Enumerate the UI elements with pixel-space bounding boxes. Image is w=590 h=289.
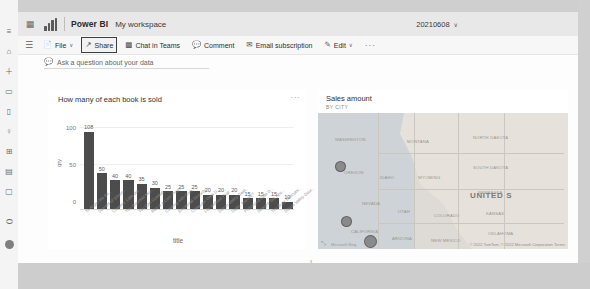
window-chrome-right — [578, 0, 590, 289]
qna-bubble-icon: 💬 — [44, 58, 53, 66]
visual-more-options-icon[interactable]: ··· — [291, 93, 301, 102]
edit-button[interactable]: ✎ Edit ∨ — [320, 38, 356, 52]
x-tick-label: Bart is a Liver Press... — [148, 209, 161, 236]
visual-map[interactable]: Sales amount BY CITY WASHINGTONMONTANANO… — [318, 89, 568, 249]
x-tick-label: Secrets of Silicon... — [95, 209, 108, 236]
map-title: Sales amount — [326, 94, 568, 103]
state-label: CALIFORNIA — [351, 229, 378, 234]
rail-item-learn-icon[interactable]: ▢ — [0, 188, 18, 196]
state-label: UTAH — [398, 209, 410, 214]
state-label: NORTH DAKOTA — [473, 135, 508, 140]
qna-input[interactable]: 💬 Ask a question about your data — [44, 58, 209, 69]
x-tick-label: Straight Talk Abo... — [254, 209, 267, 236]
rail-item-deployment-icon[interactable]: ▤ — [0, 168, 18, 176]
state-border — [378, 113, 379, 249]
state-label: OKLAHOMA — [488, 231, 513, 236]
report-canvas: How many of each book is sold ··· qty 10… — [18, 73, 578, 263]
x-tick-label: Chasers' Little Jet... — [109, 209, 122, 236]
chat-in-teams-label: Chat in Teams — [135, 42, 180, 49]
x-tick-label: To Anger the En... — [82, 209, 95, 236]
state-border — [414, 113, 415, 249]
bar-value-label: 108 — [84, 125, 93, 131]
state-border — [378, 189, 564, 190]
x-tick-label: Cooking with Com... — [162, 209, 175, 236]
state-label: COLORADO — [434, 213, 460, 218]
rail-item-metrics-icon[interactable]: ♀ — [0, 128, 18, 136]
chat-in-teams-button[interactable]: ▩ Chat in Teams — [121, 38, 184, 52]
report-name-label: 20210608 — [416, 20, 449, 29]
share-icon: ↗ — [85, 41, 91, 49]
x-tick-label: Prolonged Data D... — [241, 209, 254, 236]
visual-bar-chart[interactable]: How many of each book is sold ··· qty 10… — [48, 89, 306, 249]
qna-placeholder: Ask a question about your data — [57, 59, 154, 66]
map-data-bubble[interactable] — [335, 161, 346, 172]
x-tick-label: Emotional Security... — [175, 209, 188, 236]
state-label: OREGON — [344, 170, 364, 175]
y-tick-100: 100 — [60, 125, 76, 131]
state-label: SOUTH DAKOTA — [473, 165, 508, 170]
state-label: ARIZONA — [392, 236, 412, 241]
bar-value-label: 40 — [125, 174, 131, 180]
map-data-bubble[interactable] — [341, 216, 352, 227]
state-label: WYOMING — [418, 175, 440, 180]
map-resize-icon[interactable]: ⤡ — [321, 240, 326, 247]
waffle-icon[interactable]: ▦ — [22, 20, 38, 29]
state-label: NEVADA — [362, 201, 380, 206]
power-bi-logo-icon[interactable] — [43, 17, 58, 32]
x-axis-labels: To Anger the En...Secrets of Silicon...C… — [82, 209, 294, 236]
rail-item-browse-icon[interactable]: ▭ — [0, 88, 18, 96]
bar-value-label: 35 — [139, 177, 145, 183]
left-nav-rail: ≡⌂＋▭▯♀⊞▤▢⬭ — [0, 0, 18, 289]
x-tick-label: You Can Combat... — [135, 209, 148, 236]
y-tick-0: 0 — [60, 199, 76, 205]
state-label: WASHINGTON — [335, 137, 366, 142]
country-label: UNITED S — [470, 191, 512, 200]
bar-item[interactable]: 108 — [83, 123, 95, 209]
email-icon: ✉ — [246, 41, 252, 49]
edit-pencil-icon: ✎ — [324, 41, 330, 49]
rail-item-home-icon[interactable]: ⌂ — [0, 48, 18, 56]
chevron-down-icon: ∨ — [349, 42, 353, 48]
map-data-bubble[interactable] — [364, 235, 377, 248]
state-border — [504, 113, 505, 249]
page-nav-indicator[interactable]: ‹ — [310, 258, 312, 265]
brand-label[interactable]: Power BI — [71, 19, 108, 29]
x-tick-label: Silicon Valley Gast... — [215, 209, 228, 236]
state-label: KANSAS — [486, 211, 504, 216]
email-subscription-button[interactable]: ✉ Email subscription — [242, 38, 316, 52]
command-bar: ☰ 📄 File ∨ ↗ Share ▩ Chat in Teams 💬 Com… — [18, 36, 578, 55]
rail-item-apps-icon[interactable]: ⊞ — [0, 148, 18, 156]
window-chrome-top — [0, 0, 590, 12]
map-canvas[interactable]: WASHINGTONMONTANANORTH DAKOTAOREGONIDAHO… — [318, 113, 568, 249]
teams-icon: ▩ — [125, 41, 132, 49]
state-border — [378, 153, 564, 154]
x-axis-title: title — [58, 237, 298, 244]
chevron-down-icon: ∨ — [454, 21, 458, 28]
edit-label: Edit — [334, 42, 346, 49]
report-switcher[interactable]: 20210608 ∨ — [416, 20, 458, 29]
rail-item-nav-menu-icon[interactable]: ≡ — [0, 28, 18, 36]
file-menu-button[interactable]: 📄 File ∨ — [39, 38, 77, 52]
more-options-button[interactable]: ··· — [361, 38, 380, 52]
state-label: NEW MEXICO — [431, 238, 460, 243]
state-label: MONTANA — [407, 139, 429, 144]
bar-value-label: 40 — [112, 174, 118, 180]
rail-item-data-hub-icon[interactable]: ▯ — [0, 108, 18, 116]
workspace-label[interactable]: My workspace — [115, 20, 166, 29]
rail-item-create-icon[interactable]: ＋ — [0, 68, 18, 76]
file-icon: 📄 — [43, 41, 52, 49]
email-subscription-label: Email subscription — [256, 42, 313, 49]
hamburger-icon[interactable]: ☰ — [23, 41, 35, 50]
bar-value-label: 50 — [99, 167, 105, 173]
file-menu-label: File — [55, 42, 66, 49]
bar[interactable] — [84, 132, 94, 209]
user-avatar[interactable] — [5, 240, 14, 249]
share-button[interactable]: ↗ Share — [81, 37, 117, 53]
state-border — [458, 113, 459, 249]
window-chrome-bottom — [0, 263, 590, 289]
powerbi-app: ▦ Power BI My workspace 20210608 ∨ ☰ 📄 F… — [18, 12, 578, 263]
comment-button[interactable]: 💬 Comment — [188, 38, 238, 52]
rail-item-workspaces-icon[interactable]: ⬭ — [0, 218, 18, 226]
chevron-down-icon: ∨ — [69, 42, 73, 48]
x-tick-label: The Busy Executiv... — [268, 209, 281, 236]
